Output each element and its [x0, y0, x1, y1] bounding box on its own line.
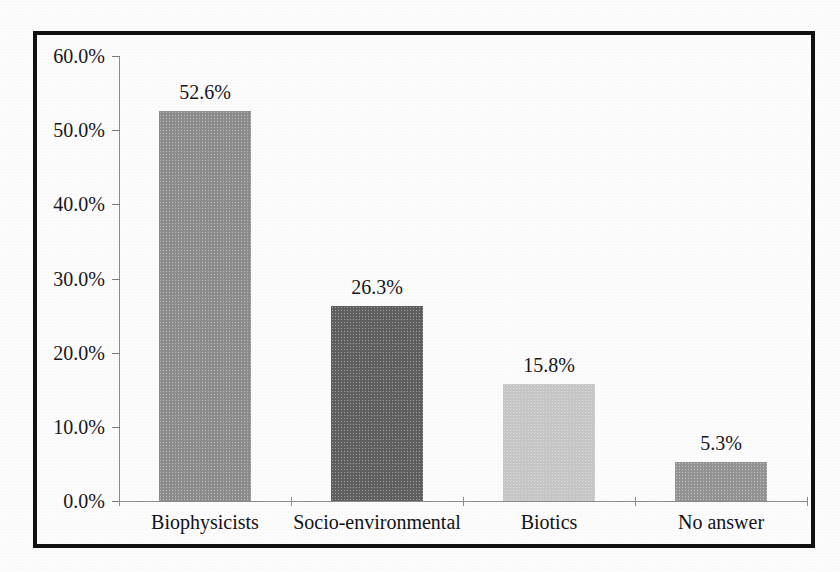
y-axis-tick-mark [112, 56, 120, 57]
x-axis-tick-mark [807, 497, 808, 506]
bar-value-label: 26.3% [351, 277, 403, 297]
x-axis-category-label: No answer [635, 512, 807, 532]
x-axis-tick-mark [635, 497, 636, 506]
y-axis-tick-mark [112, 427, 120, 428]
bar-column[interactable]: 26.3% [331, 266, 423, 501]
bar-value-label: 52.6% [179, 82, 231, 102]
y-axis-tick-mark [112, 353, 120, 354]
figure-frame: 0.0%10.0%20.0%30.0%40.0%50.0%60.0% 52.6%… [33, 31, 815, 548]
y-axis-tick-label: 0.0% [0, 491, 105, 511]
bar-column[interactable]: 52.6% [159, 71, 251, 501]
y-axis-tick-label: 60.0% [0, 46, 105, 66]
x-axis-tick-mark [291, 497, 292, 506]
y-axis-tick-mark [112, 204, 120, 205]
y-axis-tick-mark [112, 130, 120, 131]
bar-column[interactable]: 5.3% [675, 422, 767, 501]
bar-rect[interactable] [159, 111, 251, 501]
x-axis-category-label: Socio-environmental [291, 512, 463, 532]
y-axis-tick-label: 20.0% [0, 343, 105, 363]
x-axis-category-label: Biotics [463, 512, 635, 532]
bar-value-label: 5.3% [700, 433, 742, 453]
y-axis-tick-label: 30.0% [0, 269, 105, 289]
y-axis-tick-label: 50.0% [0, 120, 105, 140]
y-axis-tick-label: 40.0% [0, 194, 105, 214]
chart-plot-area: 0.0%10.0%20.0%30.0%40.0%50.0%60.0% 52.6%… [37, 35, 819, 552]
bar-rect[interactable] [503, 384, 595, 501]
y-axis-tick-mark [112, 279, 120, 280]
bar-rect[interactable] [331, 306, 423, 501]
bar-column[interactable]: 15.8% [503, 344, 595, 501]
x-axis-category-label: Biophysicists [119, 512, 291, 532]
x-axis-tick-mark [119, 497, 120, 506]
x-axis-tick-mark [463, 497, 464, 506]
y-axis-tick-label: 10.0% [0, 417, 105, 437]
bar-rect[interactable] [675, 462, 767, 501]
bar-value-label: 15.8% [523, 355, 575, 375]
